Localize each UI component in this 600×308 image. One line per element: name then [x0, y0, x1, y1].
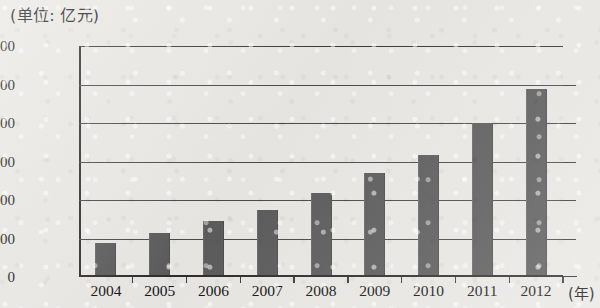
x-axis-tick — [293, 277, 294, 283]
bar — [418, 155, 439, 275]
y-axis-unit-label: (单位: 亿元) — [10, 2, 99, 26]
x-axis-tick-label: 2011 — [467, 282, 497, 300]
x-axis-tick — [401, 277, 402, 283]
gridline — [79, 46, 563, 47]
y-axis-tick-label: 10000 — [0, 76, 15, 93]
y-axis-right-tick — [563, 162, 576, 163]
x-axis-tick-label: 2004 — [90, 282, 121, 300]
bar — [257, 210, 278, 275]
y-axis-tick-label: 4000 — [0, 192, 15, 209]
bar — [203, 221, 224, 275]
x-axis-tick-label: 2012 — [521, 282, 552, 300]
y-axis-tick-label: 6000 — [0, 153, 15, 170]
y-axis-right-tick — [563, 239, 576, 240]
bar-chart: (单位: 亿元) (年) 020004000600080001000012000… — [0, 0, 600, 308]
x-axis-extension — [563, 276, 577, 278]
x-axis-tick-label: 2009 — [359, 282, 390, 300]
y-axis-tick-label: 0 — [0, 269, 15, 286]
x-axis-tick — [347, 277, 348, 283]
x-axis-tick-label: 2010 — [413, 282, 444, 300]
x-axis-tick — [186, 277, 187, 283]
plot-area — [79, 46, 563, 277]
x-axis-tick-label: 2006 — [198, 282, 229, 300]
gridline — [79, 85, 563, 86]
y-axis-right-tick — [563, 200, 576, 201]
x-axis-line — [79, 275, 563, 277]
bar — [364, 173, 385, 275]
y-axis-tick-label: 8000 — [0, 115, 15, 132]
y-axis-right-tick — [563, 85, 576, 86]
y-axis-right-tick — [563, 123, 576, 124]
bar — [472, 123, 493, 275]
x-axis-tick-label: 2008 — [306, 282, 337, 300]
bar — [149, 233, 170, 275]
x-axis-tick — [455, 277, 456, 283]
x-axis-unit-label: (年) — [568, 282, 595, 303]
bar — [95, 243, 116, 276]
x-axis-tick — [132, 277, 133, 283]
x-axis-tick — [509, 277, 510, 283]
bar — [311, 193, 332, 276]
bar — [526, 89, 547, 275]
x-axis-tick-label: 2005 — [144, 282, 175, 300]
x-axis-tick — [240, 277, 241, 283]
y-axis-tick-label: 12000 — [0, 38, 15, 55]
x-axis-tick — [562, 277, 563, 283]
x-axis-tick-label: 2007 — [252, 282, 283, 300]
y-axis-tick-label: 2000 — [0, 230, 15, 247]
